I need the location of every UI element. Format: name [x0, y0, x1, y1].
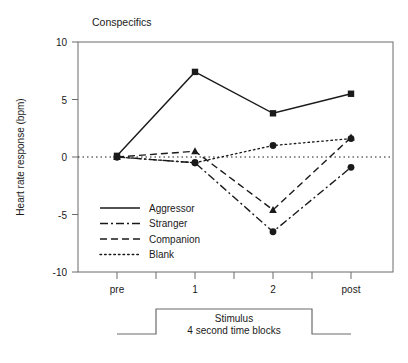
legend-label-stranger: Stranger — [149, 218, 188, 229]
data-point-aggressor-2 — [270, 110, 276, 116]
x-tick-label-1: 1 — [192, 284, 198, 295]
x-tick-label-post: post — [342, 284, 361, 295]
y-tick-label-0: 0 — [61, 152, 67, 163]
legend-label-aggressor: Aggressor — [149, 203, 195, 214]
y-tick-label-10: 10 — [56, 37, 68, 48]
data-point-blank-2 — [270, 142, 277, 149]
data-point-stranger-2 — [270, 228, 277, 235]
y-tick-label-5: 5 — [61, 95, 67, 106]
data-point-aggressor-post — [348, 91, 354, 97]
stimulus-label-primary: Stimulus — [215, 313, 253, 324]
data-point-aggressor-1 — [192, 69, 198, 75]
legend-label-companion: Companion — [149, 234, 200, 245]
y-tick-label-neg5: -5 — [58, 210, 67, 221]
y-axis-label: Heart rate response (bpm) — [15, 98, 26, 215]
x-tick-label-pre: pre — [110, 284, 125, 295]
data-point-stranger-post — [348, 164, 355, 171]
chart-title: Conspecifics — [92, 16, 152, 28]
stimulus-label-secondary: 4 second time blocks — [187, 325, 280, 336]
y-tick-label-neg10: -10 — [53, 267, 68, 278]
chart-figure: Conspecifics Heart rate response (bpm) 1… — [0, 0, 408, 363]
data-point-blank-pre — [114, 154, 121, 161]
legend-label-blank: Blank — [149, 249, 175, 260]
conspecifics-line-chart: Conspecifics Heart rate response (bpm) 1… — [0, 0, 408, 363]
data-point-blank-1 — [192, 159, 199, 166]
x-tick-label-2: 2 — [270, 284, 276, 295]
data-point-blank-post — [348, 135, 355, 142]
